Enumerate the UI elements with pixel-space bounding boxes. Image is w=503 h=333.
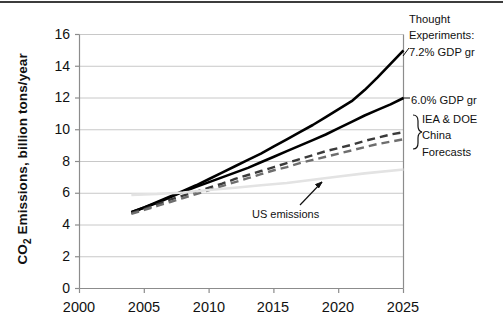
co2-emissions-line-chart: CO2 Emissions, billion tons/year 16 14 1… — [0, 0, 503, 333]
annotation-gdp-6-percent: 6.0% GDP gr — [411, 92, 477, 108]
annotation-thought-line3: 7.2% GDP gr — [409, 44, 475, 60]
brace-icon — [413, 115, 422, 149]
annotation-iea-line3: Forecasts — [422, 144, 477, 160]
annotation-thought-line2: Experiments: — [409, 27, 475, 43]
annotation-thought-experiments: Thought Experiments: 7.2% GDP gr — [409, 11, 475, 60]
series-us-emissions — [131, 169, 403, 194]
annotation-iea-line1: IEA & DOE — [422, 111, 477, 127]
annotation-iea-doe-china-forecasts: IEA & DOE China Forecasts — [422, 111, 477, 160]
gridlines — [80, 35, 404, 257]
annotation-us-emissions: US emissions — [252, 208, 319, 220]
series-6-0-gdp-gr — [131, 98, 403, 212]
data-series-layer — [131, 50, 403, 214]
annotation-iea-line2: China — [422, 127, 477, 143]
annotation-thought-line1: Thought — [409, 11, 475, 27]
series-7-2-gdp-gr — [131, 50, 403, 212]
